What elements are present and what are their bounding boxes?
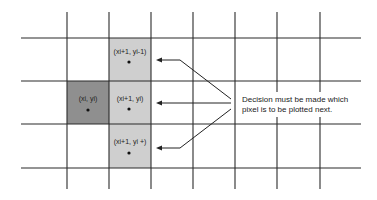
label-candidate-mid: (xi+1, yi) <box>117 95 144 103</box>
arrow-to-bottom <box>160 109 231 148</box>
note-line-1: Decision must be made which <box>242 95 348 104</box>
dot-candidate-bottom <box>127 151 130 154</box>
arrowhead-bottom-icon <box>156 146 162 151</box>
candidate-pixel-mid <box>109 81 151 124</box>
dot-candidate-top <box>127 60 130 63</box>
note-line-2: pixel is to be plotted next. <box>242 105 332 114</box>
arrowheads <box>156 58 162 151</box>
pixel-grid-diagram: (xi+1, yi-1) (xi, yi) (xi+1, yi) (xi+1, … <box>0 0 377 200</box>
current-pixel <box>67 81 109 124</box>
label-candidate-top: (xi+1, yi-1) <box>114 48 147 56</box>
dot-current <box>86 108 89 111</box>
candidate-pixel-top <box>109 38 151 81</box>
arrow-to-top <box>160 60 231 99</box>
arrowhead-top-icon <box>156 58 162 63</box>
arrowhead-mid-icon <box>156 101 162 106</box>
label-candidate-bottom: (xi+1, yi +) <box>114 138 147 146</box>
decision-arrows <box>160 60 231 148</box>
label-current: (xi, yi) <box>79 95 98 103</box>
dot-candidate-mid <box>127 107 130 110</box>
candidate-pixel-bottom <box>109 124 151 168</box>
